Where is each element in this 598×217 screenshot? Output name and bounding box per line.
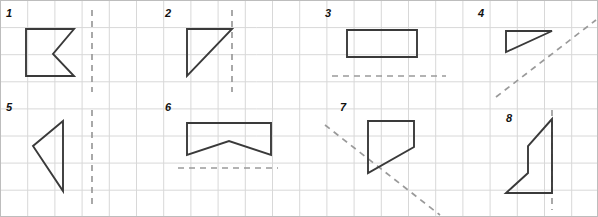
shape-2-right-triangle xyxy=(187,29,232,76)
shape-7-quadrilateral-trapezoid xyxy=(368,121,414,173)
shapes-and-mirror-lines xyxy=(0,0,598,217)
shape-8-zigzag-step-polygon xyxy=(506,119,552,193)
shape-1-arrow-notch-left-polygon xyxy=(26,29,74,76)
shape-4-right-triangle xyxy=(506,31,552,52)
shape-3-rectangle xyxy=(347,30,417,57)
shape-5-left-pointing-triangle xyxy=(33,121,63,191)
diagonal-mirror-line xyxy=(325,125,440,215)
shape-6-banner-chevron-polygon xyxy=(187,123,271,155)
symmetry-worksheet: 12345678 xyxy=(0,0,598,217)
